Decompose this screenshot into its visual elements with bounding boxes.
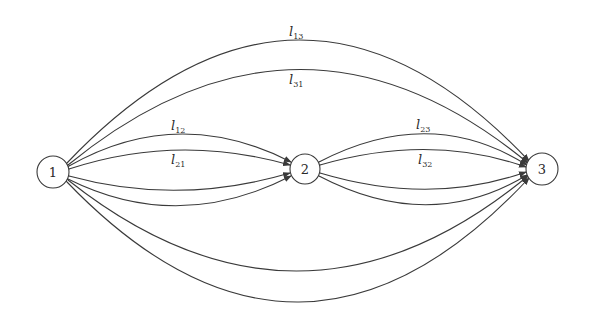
node-3: 3 (526, 153, 558, 185)
edge-l13 (67, 40, 529, 163)
edge-lower-12b (68, 176, 291, 206)
node-3-label: 3 (538, 162, 546, 177)
node-2: 2 (290, 154, 320, 184)
edge-bottom-13b (67, 178, 529, 302)
node-1-label: 1 (49, 165, 57, 180)
edge-label-l23: l23 (416, 117, 430, 134)
node-2-label: 2 (301, 162, 309, 177)
edge-bottom-13a (68, 176, 528, 271)
node-1: 1 (37, 156, 69, 188)
edge-lower-23a (320, 172, 526, 189)
edge-label-l31: l31 (289, 72, 303, 89)
network-diagram: 1 2 3 l13 l31 l12 l21 l23 l32 (0, 0, 592, 316)
edge-label-l12: l12 (171, 118, 185, 135)
edge-label-l21: l21 (171, 152, 185, 169)
edge-label-l32: l32 (418, 152, 432, 169)
edge-label-l13: l13 (289, 24, 303, 41)
edge-lower-12a (69, 173, 290, 190)
